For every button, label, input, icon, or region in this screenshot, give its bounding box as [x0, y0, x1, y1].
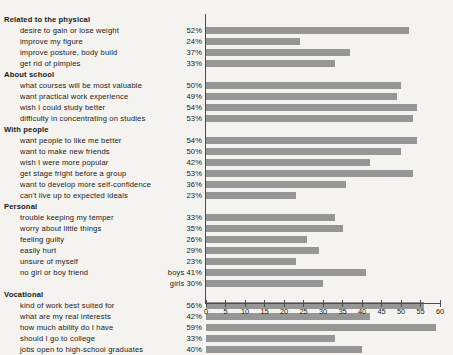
bar [206, 269, 366, 276]
chart-row: feeling guilty26% [0, 234, 453, 245]
x-tick [264, 300, 265, 307]
bar [206, 181, 346, 188]
bar-container [206, 49, 350, 56]
chart-row: what courses will be most valuable50% [0, 80, 453, 91]
row-value-label: 37% [120, 47, 202, 58]
chart-row: difficulty in concentrating on studies53… [0, 113, 453, 124]
x-tick-label: 50 [397, 308, 405, 316]
bar-container [206, 60, 335, 67]
chart-row: get stage fright before a group53% [0, 168, 453, 179]
bar-container [206, 82, 401, 89]
x-tick-label: 0 [204, 308, 208, 316]
row-value-label: 23% [120, 256, 202, 267]
section-title: With people [0, 124, 180, 135]
bar [206, 137, 417, 144]
chart-row: wish I were more popular42% [0, 157, 453, 168]
bar [206, 27, 409, 34]
bar-container [206, 192, 296, 199]
bar [206, 214, 335, 221]
x-tick [401, 300, 402, 307]
bar-container [206, 280, 323, 287]
x-tick [245, 300, 246, 307]
bar-container [206, 159, 370, 166]
bar [206, 159, 370, 166]
bar [206, 192, 296, 199]
x-tick [206, 300, 207, 307]
x-tick-label: 10 [241, 308, 249, 316]
chart-row: girls 30% [0, 278, 453, 289]
row-value-label: 42% [120, 157, 202, 168]
chart-row: want to develop more self-confidence36% [0, 179, 453, 190]
bar-container [206, 181, 346, 188]
bar-container [206, 115, 413, 122]
bar-container [206, 236, 307, 243]
x-tick [225, 300, 226, 307]
y-axis-line [205, 14, 206, 303]
chart-row: wish I could study better54% [0, 102, 453, 113]
row-value-label: 53% [120, 113, 202, 124]
x-tick-label: 25 [299, 308, 307, 316]
bar [206, 115, 413, 122]
bar [206, 236, 307, 243]
section-header-row: Vocational [0, 289, 453, 300]
section-title: Vocational [0, 289, 180, 300]
row-value-label: 56% [120, 300, 202, 311]
section-header-row: With people [0, 124, 453, 135]
bar [206, 93, 397, 100]
x-tick [362, 300, 363, 307]
x-tick-label: 45 [377, 308, 385, 316]
row-value-label: 42% [120, 311, 202, 322]
x-tick-label: 55 [416, 308, 424, 316]
x-tick [284, 300, 285, 307]
x-tick-label: 35 [338, 308, 346, 316]
x-tick [323, 300, 324, 307]
chart-row: want to make new friends50% [0, 146, 453, 157]
bar [206, 280, 323, 287]
bar [206, 335, 335, 342]
bar [206, 82, 401, 89]
chart-row: unsure of myself23% [0, 256, 453, 267]
row-value-label: 23% [120, 190, 202, 201]
bar-container [206, 258, 296, 265]
bar [206, 49, 350, 56]
chart-row: jobs open to high-school graduates40% [0, 344, 453, 355]
bar-container [206, 346, 362, 353]
row-value-label: 24% [120, 36, 202, 47]
row-value-label: 54% [120, 102, 202, 113]
bar-container [206, 93, 397, 100]
bar-container [206, 214, 335, 221]
section-header-row: Personal [0, 201, 453, 212]
section-title: About school [0, 69, 180, 80]
bar-container [206, 225, 343, 232]
chart-row: want people to like me better54% [0, 135, 453, 146]
row-value-label: 50% [120, 146, 202, 157]
row-value-label: 26% [120, 234, 202, 245]
section-title: Related to the physical [0, 14, 180, 25]
bar-container [206, 104, 417, 111]
chart-row: how much ability do I have59% [0, 322, 453, 333]
section-header-row: Related to the physical [0, 14, 453, 25]
section-header-row: About school [0, 69, 453, 80]
bar [206, 258, 296, 265]
bar [206, 148, 401, 155]
row-value-label: 40% [120, 344, 202, 355]
row-value-label: boys 41% [120, 267, 202, 278]
chart-row: can't live up to expected ideals23% [0, 190, 453, 201]
x-tick-label: 60 [436, 308, 444, 316]
x-tick [381, 300, 382, 307]
chart-row: get rid of pimples33% [0, 58, 453, 69]
row-value-label: 33% [120, 333, 202, 344]
row-value-label: 49% [120, 91, 202, 102]
row-value-label: 54% [120, 135, 202, 146]
bar [206, 324, 436, 331]
bar [206, 104, 417, 111]
chart-row: easily hurt29% [0, 245, 453, 256]
row-value-label: 29% [120, 245, 202, 256]
x-tick-label: 30 [319, 308, 327, 316]
bar [206, 225, 343, 232]
bar-container [206, 137, 417, 144]
chart-row: desire to gain or lose weight52% [0, 25, 453, 36]
x-tick-label: 15 [260, 308, 268, 316]
chart-row: want practical work experience49% [0, 91, 453, 102]
